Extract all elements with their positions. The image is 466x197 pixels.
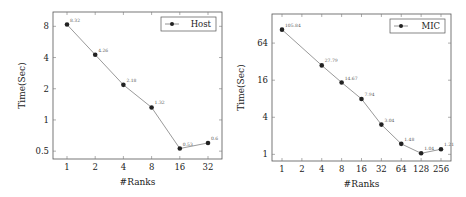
series-line-mic	[282, 30, 441, 154]
data-point	[419, 151, 424, 156]
plot-frame	[53, 12, 222, 159]
data-point	[439, 147, 444, 152]
data-point	[93, 52, 98, 57]
y-tick-label: 2	[44, 84, 49, 94]
x-tick-label: 8	[149, 162, 154, 172]
data-label: 1.48	[404, 137, 414, 142]
x-tick-label: 1	[279, 164, 284, 174]
data-label: 14.67	[345, 76, 358, 81]
x-tick-label: 4	[319, 164, 324, 174]
data-point	[319, 63, 324, 68]
legend-marker	[399, 24, 403, 28]
y-axis-label: Time(Sec)	[17, 62, 27, 108]
x-tick-label: 256	[433, 164, 449, 174]
data-label: 105.84	[285, 23, 301, 28]
data-label: 0.53	[183, 142, 193, 147]
data-label: 2.18	[126, 78, 136, 83]
legend-label: Host	[191, 19, 212, 29]
data-label: 0.6	[211, 136, 218, 141]
data-label: 7.94	[365, 92, 375, 97]
y-axis-label: Time(Sec)	[236, 64, 246, 110]
x-tick-label: 32	[203, 162, 214, 172]
data-point	[280, 27, 285, 32]
data-point	[379, 122, 384, 127]
x-tick-label: 2	[299, 164, 304, 174]
mic-chart: 1248163264128256141664#RanksTime(Sec)105…	[236, 14, 454, 189]
y-tick-label: 1	[263, 149, 268, 159]
y-tick-label: 4	[263, 112, 268, 122]
x-tick-label: 16	[356, 164, 367, 174]
x-tick-label: 64	[396, 164, 407, 174]
x-axis-label: #Ranks	[120, 177, 156, 187]
y-tick-label: 0.5	[35, 146, 49, 156]
host-chart: 124816320.51248#RanksTime(Sec)8.324.262.…	[17, 12, 222, 187]
data-point	[121, 83, 126, 88]
x-tick-label: 4	[121, 162, 126, 172]
y-tick-label: 16	[257, 75, 268, 85]
data-label: 8.32	[70, 18, 80, 23]
plot-frame	[272, 14, 451, 161]
x-tick-label: 32	[376, 164, 387, 174]
data-label: 1.04	[424, 146, 434, 151]
x-tick-label: 8	[339, 164, 344, 174]
x-tick-label: 1	[64, 162, 69, 172]
data-label: 1.21	[444, 142, 454, 147]
y-tick-label: 1	[44, 115, 49, 125]
data-label: 3.04	[384, 118, 394, 123]
data-point	[399, 142, 404, 147]
data-label: 1.32	[155, 100, 165, 105]
y-tick-label: 64	[257, 38, 268, 48]
y-tick-label: 8	[44, 21, 49, 31]
data-point	[339, 80, 344, 85]
x-axis-label: #Ranks	[344, 179, 380, 189]
data-point	[206, 141, 211, 146]
data-label: 27.79	[325, 58, 338, 63]
y-tick-label: 4	[44, 53, 49, 63]
data-point	[178, 146, 183, 151]
data-point	[359, 97, 364, 102]
x-tick-label: 2	[92, 162, 97, 172]
series-line-host	[67, 25, 208, 149]
legend-marker	[170, 22, 174, 26]
charts-figure: 124816320.51248#RanksTime(Sec)8.324.262.…	[0, 0, 466, 197]
data-point	[149, 105, 154, 110]
legend-label: MIC	[421, 21, 440, 31]
x-tick-label: 16	[174, 162, 185, 172]
data-label: 4.26	[98, 48, 108, 53]
x-tick-label: 128	[413, 164, 429, 174]
data-point	[65, 22, 70, 27]
